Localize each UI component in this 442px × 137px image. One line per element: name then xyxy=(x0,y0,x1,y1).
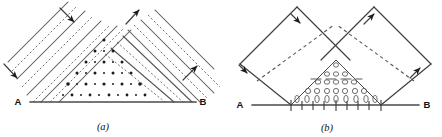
figure-wave-interference-pair: A B (a) xyxy=(0,0,442,137)
panel-a-arrows xyxy=(4,8,197,80)
panel-b-left-beam-center-ray xyxy=(257,25,334,81)
arrow-right-beam-top xyxy=(126,10,139,24)
arrow-right-beam-bottom xyxy=(183,66,197,80)
figure-canvas: A B (a) xyxy=(0,0,442,137)
panel-b-interference-ellipses xyxy=(295,63,377,103)
panel-a-label-a: A xyxy=(15,96,22,107)
arrow-left-beam-top xyxy=(60,8,74,22)
arrow-left-beam-bottom xyxy=(4,64,17,78)
panel-b: A B (b) xyxy=(237,7,431,134)
panel-b-label-a: A xyxy=(237,99,244,110)
panel-a-caption: (a) xyxy=(97,121,110,133)
panel-b-label-b: B xyxy=(424,99,431,110)
panel-a-right-wavetrain xyxy=(105,10,220,102)
panel-a: A B (a) xyxy=(4,2,220,133)
panel-b-right-beam xyxy=(321,7,431,105)
panel-b-caption: (b) xyxy=(321,122,334,134)
arrow-left-beam-upper xyxy=(291,14,300,23)
panel-a-label-b: B xyxy=(200,96,207,107)
